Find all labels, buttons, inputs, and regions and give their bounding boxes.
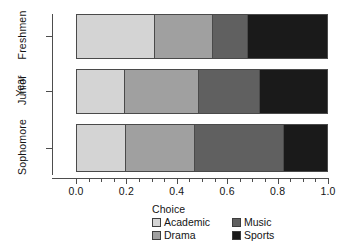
legend-swatch-icon	[232, 231, 241, 240]
x-axis-tick	[126, 178, 127, 184]
x-axis-label: 0.0	[56, 185, 96, 197]
bar-segment-music	[194, 124, 282, 172]
bar-segment-academic	[76, 124, 125, 172]
legend-item-academic[interactable]: Academic	[152, 216, 232, 229]
x-axis-minor-tick	[202, 178, 203, 182]
x-axis-tick	[227, 178, 228, 184]
legend-swatch-icon	[152, 231, 161, 240]
legend-label: Sports	[244, 229, 274, 242]
x-axis-minor-tick	[114, 178, 115, 182]
bar-segment-music	[212, 14, 247, 59]
y-axis-tick	[46, 36, 52, 37]
x-axis-label: 0.6	[207, 185, 247, 197]
y-axis-tick	[46, 91, 52, 92]
x-axis-minor-tick	[152, 178, 153, 182]
legend-label: Music	[244, 216, 271, 229]
x-axis-minor-tick	[101, 178, 102, 182]
x-axis-minor-tick	[139, 178, 140, 182]
stacked-bar-chart: Year FreshmenJuniorSophomore 0.00.20.40.…	[0, 0, 350, 250]
legend-item-music[interactable]: Music	[232, 216, 312, 229]
x-axis-tick	[76, 178, 77, 184]
bar-segment-drama	[154, 14, 212, 59]
x-axis-minor-tick	[290, 178, 291, 182]
legend-item-drama[interactable]: Drama	[152, 229, 232, 242]
x-axis-label: 0.8	[258, 185, 298, 197]
bar-segment-music	[198, 69, 258, 114]
x-axis-minor-tick	[164, 178, 165, 182]
x-axis-tick	[177, 178, 178, 184]
bar-segment-sports	[283, 124, 328, 172]
legend-label: Academic	[164, 216, 210, 229]
y-axis-line	[52, 14, 53, 175]
x-axis-minor-tick	[189, 178, 190, 182]
legend-item-sports[interactable]: Sports	[232, 229, 312, 242]
legend-swatch-icon	[152, 218, 161, 227]
x-axis-minor-tick	[240, 178, 241, 182]
bar-segment-academic	[76, 69, 124, 114]
legend-title: Choice	[152, 203, 312, 215]
bar-row	[76, 69, 328, 114]
bar-row	[76, 124, 328, 172]
bar-segment-sports	[259, 69, 328, 114]
y-axis-tick	[46, 148, 52, 149]
x-axis-minor-tick	[315, 178, 316, 182]
legend-entries: AcademicMusicDramaSports	[152, 216, 312, 242]
bar-segment-sports	[247, 14, 328, 59]
y-axis-label-sophomore: Sophomore	[16, 112, 28, 182]
x-axis-minor-tick	[215, 178, 216, 182]
bar-segment-drama	[124, 69, 198, 114]
legend-label: Drama	[164, 229, 196, 242]
x-axis-tick	[328, 178, 329, 184]
bar-row	[76, 14, 328, 59]
legend-swatch-icon	[232, 218, 241, 227]
x-axis-label: 1.0	[308, 185, 348, 197]
x-axis-tick	[278, 178, 279, 184]
x-axis-minor-tick	[265, 178, 266, 182]
bar-segment-academic	[76, 14, 154, 59]
x-axis-label: 0.2	[106, 185, 146, 197]
x-axis-minor-tick	[252, 178, 253, 182]
plot-area	[76, 14, 328, 175]
x-axis-minor-tick	[303, 178, 304, 182]
x-axis-label: 0.4	[157, 185, 197, 197]
x-axis-minor-tick	[89, 178, 90, 182]
bar-segment-drama	[125, 124, 194, 172]
legend: Choice AcademicMusicDramaSports	[152, 203, 312, 242]
